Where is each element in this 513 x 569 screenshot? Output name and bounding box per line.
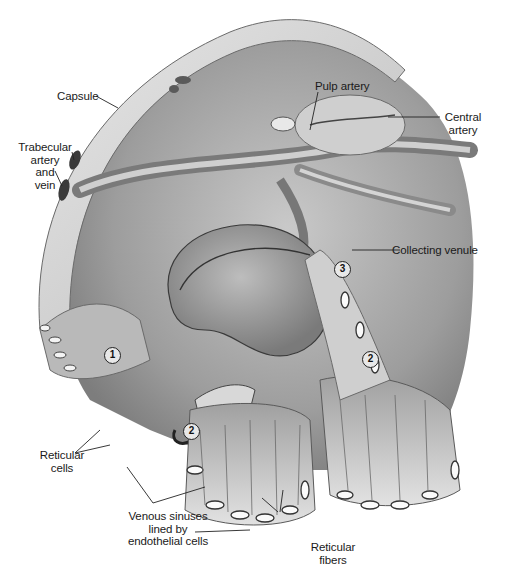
label-trabecular-artery-and-vein: Trabecular artery and vein: [17, 141, 73, 191]
label-capsule: Capsule: [57, 90, 99, 103]
marker-3: 3: [334, 261, 351, 278]
label-venous-sinuses: Venous sinuses lined by endothelial cell…: [120, 510, 216, 548]
illustration-artwork: [0, 0, 513, 569]
marker-2-left: 2: [183, 423, 200, 440]
label-pulp-artery: Pulp artery: [315, 80, 370, 93]
marker-1: 1: [104, 347, 121, 364]
label-reticular-fibers: Reticular fibers: [308, 541, 358, 566]
marker-2-right: 2: [362, 351, 379, 368]
label-central-artery: Central artery: [440, 111, 486, 136]
spleen-illustration: Capsule Trabecular artery and vein Pulp …: [0, 0, 513, 569]
label-reticular-cells: Reticular cells: [36, 449, 88, 474]
label-collecting-venule: Collecting venule: [392, 244, 478, 257]
